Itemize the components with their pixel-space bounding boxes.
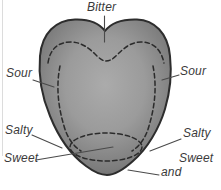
salty-right-leader-line [150,139,181,151]
label-sweet-right: Sweet [179,152,213,165]
sweet-and-right-leader-line [128,170,159,175]
tongue-shape [39,19,170,175]
label-salty-right: Salty [183,127,211,140]
label-sweet-right-and: and [161,166,182,179]
label-sour-left: Sour [6,67,32,80]
label-sour-right: Sour [180,65,206,78]
salty-left-leader-line [32,135,62,148]
taste-map-figure: Bitter Sour Sour Salty Salty Sweet Sweet… [0,0,221,190]
label-salty-left: Salty [5,124,33,137]
label-sweet-left: Sweet [4,152,38,165]
label-bitter: Bitter [87,1,116,14]
